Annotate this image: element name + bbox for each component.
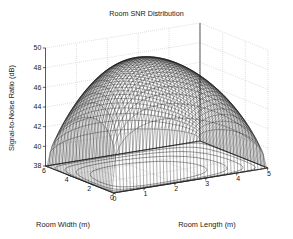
x-tick-0: 0 <box>113 195 117 202</box>
z-tick-44: 44 <box>34 103 42 110</box>
z-tick-42: 42 <box>34 123 42 130</box>
z-tick-40: 40 <box>34 143 42 150</box>
chart-title: Room SNR Distribution <box>109 9 183 18</box>
z-tick-50: 50 <box>34 44 42 51</box>
x-tick-1: 1 <box>143 190 147 197</box>
x-tick-3: 3 <box>205 180 209 187</box>
z-tick-labels: 50484644424038 <box>34 44 42 169</box>
z-tick-46: 46 <box>34 84 42 91</box>
x-tick-4: 4 <box>236 175 240 182</box>
x-tick-5: 5 <box>267 170 271 177</box>
plot-canvas: Room SNR Distribution 50484644424038 642… <box>0 0 293 239</box>
y-tick-2: 2 <box>87 185 91 192</box>
y-axis-label: Room Width (m) <box>36 220 90 229</box>
z-tick-48: 48 <box>34 64 42 71</box>
y-tick-6: 6 <box>42 167 46 174</box>
x-tick-2: 2 <box>174 185 178 192</box>
z-tick-38: 38 <box>34 162 42 169</box>
y-tick-4: 4 <box>65 176 69 183</box>
snr-surface-figure: Room SNR Distribution 50484644424038 642… <box>0 0 293 239</box>
x-axis-label: Room Length (m) <box>178 220 236 229</box>
z-axis-label: Signal-to-Noise Ratio (dB) <box>7 65 16 151</box>
